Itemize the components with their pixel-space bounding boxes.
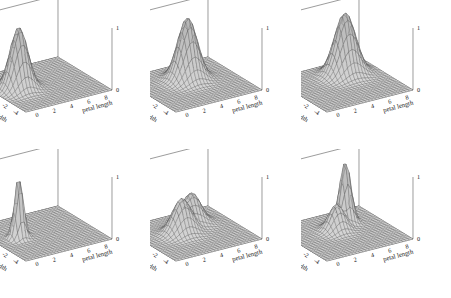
y-tick: -2 [1,101,9,110]
panel-bottom-center: 1002468petal length420-2-4petal width0Ir… [150,149,300,298]
z-axis: 10 [413,25,420,94]
x-tick: 0 [35,260,40,268]
z-axis: 10 [413,174,420,243]
x-tick: 4 [219,102,224,110]
z-axis: 10 [112,174,119,243]
x-tick: 4 [219,251,224,259]
z-tick-1: 1 [116,174,119,181]
x-tick: 0 [35,111,40,119]
x-tick: 4 [69,102,74,110]
y-tick: -2 [152,101,160,110]
panel-bottom-right: 1002468petal length420-2-4petal width0Ir… [301,149,451,298]
x-tick: 2 [52,255,57,263]
z-tick-0: 0 [266,86,269,93]
x-tick: 4 [370,251,375,259]
z-axis: 10 [112,25,119,94]
z-axis: 10 [262,25,269,94]
x-tick: 4 [69,251,74,259]
panel-top-left: 1002468petal length420-2-4petal width0Ir… [0,0,150,149]
panel-top-center: 1002468petal length420-2-4petal width0Ir… [150,0,300,149]
y-tick: -2 [1,250,9,259]
x-tick: 2 [202,106,207,114]
z-tick-1: 1 [266,174,269,181]
z-tick-1: 1 [116,25,119,32]
x-tick: 4 [370,102,375,110]
z-tick-0: 0 [266,235,269,242]
figure-grid: 1002468petal length420-2-4petal width0Ir… [0,0,451,298]
y-tick: -4 [162,108,170,117]
panel-bottom-left: 1002468petal length420-2-4petal width0Ir… [0,149,150,298]
y-tick: -4 [162,257,170,266]
y-tick: -2 [152,250,160,259]
x-tick: 0 [185,260,190,268]
y-tick: -4 [313,108,321,117]
z-axis: 10 [262,174,269,243]
panel-top-right: 1002468petal length420-2-4petal width0Ir… [301,0,451,149]
y-tick: -2 [302,101,310,110]
z-tick-1: 1 [266,25,269,32]
z-tick-0: 0 [116,235,119,242]
z-tick-1: 1 [417,25,420,32]
y-tick: -4 [12,108,20,117]
z-tick-1: 1 [417,174,420,181]
x-tick: 0 [335,260,340,268]
x-tick: 2 [202,255,207,263]
x-tick: 2 [352,106,357,114]
y-tick: -2 [302,250,310,259]
y-tick: -4 [313,257,321,266]
x-tick: 2 [52,106,57,114]
z-tick-0: 0 [116,86,119,93]
x-tick: 2 [352,255,357,263]
x-tick: 0 [335,111,340,119]
z-tick-0: 0 [417,86,420,93]
y-tick: -4 [12,257,20,266]
z-tick-0: 0 [417,235,420,242]
x-tick: 0 [185,111,190,119]
